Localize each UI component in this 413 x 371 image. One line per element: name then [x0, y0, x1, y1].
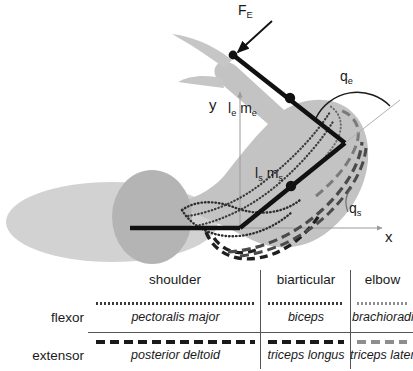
legend-muscle-pectoralis-major: pectoralis major	[92, 310, 259, 324]
upper-arm-parameters-label: ls ms	[255, 165, 283, 181]
legend-muscle-triceps-longus: triceps longus	[262, 348, 350, 362]
legend-row-label-flexor: flexor	[10, 310, 84, 325]
legend-swatch-posterior-deltoid	[96, 340, 255, 344]
elbow-angle-label: qe	[340, 68, 353, 84]
force-external-label: FE	[238, 2, 253, 18]
external-force-arrow	[238, 21, 272, 52]
legend-row-label-extensor: extensor	[2, 348, 84, 363]
biomechanical-arm-diagram: FE y x le me ls ms qe qs shoulder biarti…	[0, 0, 413, 371]
legend-swatch-triceps-longus	[268, 340, 344, 344]
legend-muscle-brachioradialis: brachioradialis	[352, 310, 413, 324]
y-axis-label: y	[209, 96, 217, 113]
forearm-com-marker	[285, 93, 295, 103]
muscle-legend-table: shoulder biarticular elbow flexor extens…	[0, 268, 413, 371]
legend-swatch-triceps-lateralus	[357, 340, 407, 344]
legend-divider-vertical-left	[260, 270, 261, 369]
x-axis-label: x	[385, 228, 393, 245]
forearm-parameters-label: le me	[228, 100, 257, 116]
legend-swatch-pectoralis-major	[96, 302, 255, 305]
legend-muscle-biceps: biceps	[262, 310, 350, 324]
legend-muscle-posterior-deltoid: posterior deltoid	[92, 348, 259, 362]
legend-column-header-elbow: elbow	[352, 272, 413, 287]
hand-endpoint-marker	[229, 51, 238, 60]
upper-arm-com-marker	[286, 181, 296, 191]
legend-swatch-brachioradialis	[357, 302, 407, 305]
legend-divider-horizontal	[88, 332, 413, 333]
legend-column-header-biarticular: biarticular	[262, 272, 350, 287]
legend-muscle-triceps-lateralus: triceps lateralus	[350, 348, 413, 362]
shoulder-angle-label: qs	[349, 200, 361, 216]
legend-column-header-shoulder: shoulder	[90, 272, 260, 287]
shoulder-joint-disc	[112, 170, 192, 264]
legend-swatch-biceps	[268, 302, 344, 305]
